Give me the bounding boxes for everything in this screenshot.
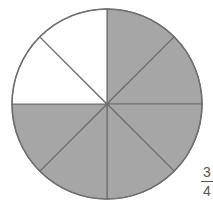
fraction-circle xyxy=(0,0,213,208)
fraction-bar xyxy=(201,181,213,182)
denominator: 4 xyxy=(201,184,213,198)
fraction-label: 3 4 xyxy=(201,165,213,198)
numerator: 3 xyxy=(201,165,213,179)
